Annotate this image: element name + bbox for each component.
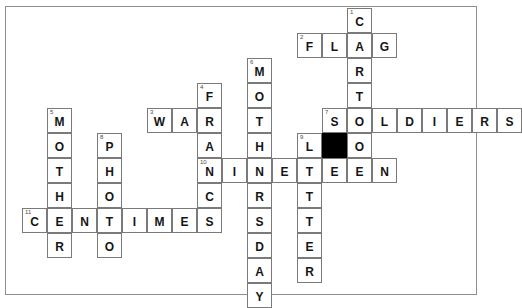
crossword-cell[interactable]: 8P — [97, 133, 122, 158]
crossword-cell[interactable]: 10N — [197, 158, 222, 183]
crossword-cell[interactable]: E — [172, 208, 197, 233]
crossword-cell[interactable]: L — [372, 108, 397, 133]
clue-number: 9 — [300, 134, 303, 141]
cell-letter: H — [255, 141, 264, 153]
crossword-cell[interactable]: E — [272, 158, 297, 183]
crossword-cell[interactable]: S — [497, 108, 522, 133]
cell-letter: S — [330, 116, 338, 128]
crossword-cell[interactable]: O — [97, 233, 122, 258]
crossword-cell[interactable]: H — [47, 183, 72, 208]
cell-letter: N — [80, 216, 89, 228]
crossword-cell[interactable]: 3W — [147, 108, 172, 133]
crossword-cell[interactable]: E — [47, 208, 72, 233]
cell-letter: I — [133, 216, 136, 228]
crossword-cell[interactable]: D — [247, 233, 272, 258]
cell-letter: O — [105, 191, 114, 203]
cell-letter: E — [355, 166, 363, 178]
cell-letter: I — [233, 166, 236, 178]
crossword-cell[interactable]: C — [197, 183, 222, 208]
crossword-cell[interactable]: R — [47, 233, 72, 258]
cell-letter: C — [30, 216, 39, 228]
cell-letter: D — [405, 116, 414, 128]
crossword-cell[interactable]: T — [297, 208, 322, 233]
crossword-cell[interactable]: I — [122, 208, 147, 233]
crossword-cell[interactable]: H — [97, 158, 122, 183]
crossword-cell[interactable]: T — [47, 158, 72, 183]
crossword-cell[interactable]: O — [47, 133, 72, 158]
cell-letter: G — [380, 41, 389, 53]
crossword-cell[interactable]: 1C — [347, 8, 372, 33]
crossword-cell[interactable]: 9L — [297, 133, 322, 158]
crossword-cell[interactable]: S — [197, 208, 222, 233]
crossword-cell[interactable]: R — [297, 258, 322, 283]
crossword-cell[interactable]: T — [97, 208, 122, 233]
crossword-cell[interactable]: A — [197, 133, 222, 158]
crossword-cell[interactable]: G — [372, 33, 397, 58]
crossword-cell[interactable]: O — [247, 83, 272, 108]
clue-number: 5 — [50, 109, 53, 116]
cell-letter: T — [306, 216, 313, 228]
cell-letter: O — [55, 141, 64, 153]
crossword-cell[interactable]: L — [322, 33, 347, 58]
cell-letter: A — [205, 141, 214, 153]
crossword-cell[interactable]: O — [347, 133, 372, 158]
crossword-cell[interactable]: 2F — [297, 33, 322, 58]
clue-number: 4 — [200, 84, 203, 91]
crossword-cell[interactable]: O — [347, 108, 372, 133]
crossword-cell[interactable]: R — [197, 108, 222, 133]
cell-letter: E — [305, 241, 313, 253]
cell-letter: E — [455, 116, 463, 128]
crossword-cell[interactable]: E — [347, 158, 372, 183]
cell-letter: O — [255, 91, 264, 103]
crossword-cell[interactable]: A — [347, 33, 372, 58]
cell-letter: N — [255, 166, 264, 178]
crossword-cell[interactable]: T — [297, 183, 322, 208]
crossword-cell[interactable]: N — [247, 158, 272, 183]
crossword-cell[interactable]: T — [297, 158, 322, 183]
clue-number: 6 — [250, 59, 253, 66]
crossword-cell[interactable]: 7S — [322, 108, 347, 133]
cell-letter: T — [106, 216, 113, 228]
crossword-cell[interactable]: R — [472, 108, 497, 133]
cell-letter: H — [55, 191, 64, 203]
crossword-cell[interactable]: T — [247, 108, 272, 133]
crossword-cell[interactable]: R — [347, 58, 372, 83]
crossword-cell[interactable]: I — [222, 158, 247, 183]
crossword-cell[interactable]: A — [247, 258, 272, 283]
cell-letter: A — [355, 41, 364, 53]
crossword-cell[interactable]: E — [297, 233, 322, 258]
crossword-cell[interactable]: M — [147, 208, 172, 233]
crossword-cell[interactable]: 4F — [197, 83, 222, 108]
crossword-cell[interactable]: 5M — [47, 108, 72, 133]
crossword-cell[interactable]: Y — [247, 283, 272, 308]
crossword-cell[interactable]: E — [322, 158, 347, 183]
crossword-cell[interactable]: D — [397, 108, 422, 133]
crossword-cell[interactable]: H — [247, 133, 272, 158]
cell-letter: D — [255, 241, 264, 253]
cell-letter: S — [205, 216, 213, 228]
cell-letter: C — [355, 16, 364, 28]
cell-letter: R — [480, 116, 489, 128]
crossword-cell[interactable]: 11C — [22, 208, 47, 233]
crossword-cell[interactable]: 6M — [247, 58, 272, 83]
cell-letter: S — [255, 216, 263, 228]
cell-letter: F — [306, 41, 313, 53]
clue-number: 7 — [325, 109, 328, 116]
crossword-cell[interactable]: A — [172, 108, 197, 133]
crossword-cell[interactable]: S — [247, 208, 272, 233]
crossword-cell[interactable]: T — [347, 83, 372, 108]
cell-letter: S — [505, 116, 513, 128]
clue-number: 3 — [150, 109, 153, 116]
crossword-cell[interactable]: O — [97, 183, 122, 208]
crossword-cell[interactable]: N — [372, 158, 397, 183]
crossword-cell[interactable]: R — [247, 183, 272, 208]
crossword-cell[interactable]: E — [447, 108, 472, 133]
clue-number: 10 — [200, 159, 207, 166]
crossword-cell[interactable]: I — [422, 108, 447, 133]
cell-letter: C — [205, 191, 214, 203]
crossword-cell[interactable]: N — [72, 208, 97, 233]
cell-letter: R — [255, 191, 264, 203]
clue-number: 11 — [25, 209, 31, 216]
cell-letter: E — [55, 216, 63, 228]
